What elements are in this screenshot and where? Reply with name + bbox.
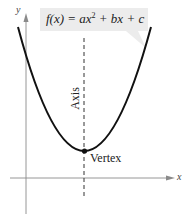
- x-axis: [10, 176, 175, 181]
- vertex-point-icon: [82, 148, 87, 153]
- y-axis: [24, 13, 29, 214]
- formula-prefix: f(x) = ax: [46, 11, 92, 26]
- x-axis-arrow-icon: [166, 176, 175, 181]
- axis-of-symmetry-label: Axis: [68, 84, 83, 114]
- formula-suffix: + bx + c: [96, 11, 145, 26]
- parabola-diagram: f(x) = ax2 + bx + c y x Axis Vertex: [0, 0, 196, 221]
- y-axis-label: y: [16, 4, 20, 15]
- formula-label: f(x) = ax2 + bx + c: [46, 11, 144, 27]
- y-axis-arrow-icon: [24, 13, 29, 22]
- diagram-svg: [0, 0, 196, 221]
- x-axis-label: x: [177, 171, 181, 182]
- vertex-label: Vertex: [90, 151, 121, 166]
